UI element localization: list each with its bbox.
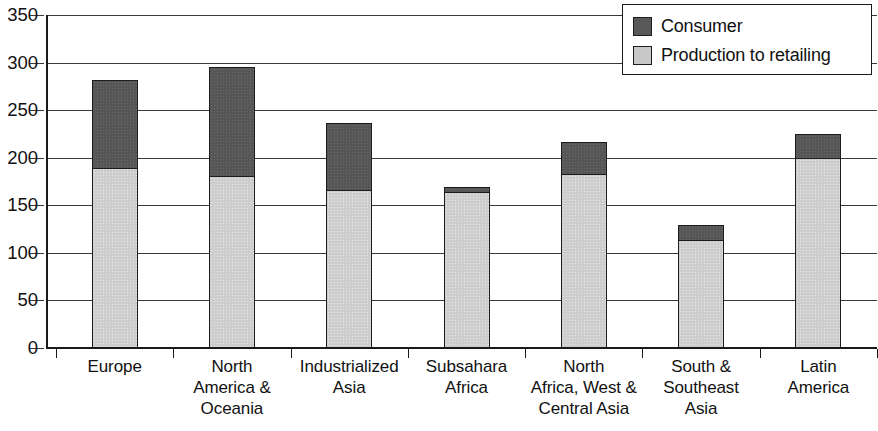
x-axis-label-line: Africa, West & bbox=[524, 377, 644, 398]
bar-segment-production-to-retailing bbox=[92, 167, 138, 348]
x-axis-label-line: Industrialized bbox=[289, 356, 409, 377]
y-tick-label: 200 bbox=[0, 149, 38, 167]
bar-group bbox=[561, 142, 607, 348]
x-axis-label-line: America & bbox=[172, 377, 292, 398]
bar-segment-production-to-retailing bbox=[326, 190, 372, 348]
y-tick-label: 150 bbox=[0, 196, 38, 214]
bar-segment-production-to-retailing bbox=[795, 158, 841, 348]
legend-item-production-to-retailing: Production to retailing bbox=[633, 41, 871, 70]
y-tick-label: 50 bbox=[0, 291, 38, 309]
x-axis-label: South &SoutheastAsia bbox=[641, 356, 761, 419]
bar-segment-production-to-retailing bbox=[678, 240, 724, 348]
x-axis-label: NorthAfrica, West &Central Asia bbox=[524, 356, 644, 419]
x-axis-label-line: Africa bbox=[407, 377, 527, 398]
bar-segment-production-to-retailing bbox=[209, 176, 255, 348]
x-axis-label: NorthAmerica &Oceania bbox=[172, 356, 292, 419]
bar-segment-consumer bbox=[326, 123, 372, 192]
x-axis-label: LatinAmerica bbox=[758, 356, 878, 398]
bar-segment-consumer bbox=[561, 142, 607, 176]
legend-item-consumer: Consumer bbox=[633, 12, 871, 41]
bar-segment-production-to-retailing bbox=[561, 174, 607, 348]
y-tick-label: 300 bbox=[0, 54, 38, 72]
bar-group bbox=[326, 123, 372, 348]
y-axis-line bbox=[46, 15, 48, 349]
bar-segment-consumer bbox=[678, 225, 724, 241]
bar-segment-consumer bbox=[92, 80, 138, 169]
bar-group bbox=[795, 134, 841, 348]
bar-group bbox=[444, 187, 490, 348]
x-axis-label-line: Oceania bbox=[172, 398, 292, 419]
chart-legend: Consumer Production to retailing bbox=[622, 4, 872, 75]
bar-group bbox=[209, 67, 255, 348]
x-axis-label-line: Southeast bbox=[641, 377, 761, 398]
x-axis-label-line: North bbox=[524, 356, 644, 377]
y-tick-label: 350 bbox=[0, 6, 38, 24]
legend-swatch-consumer bbox=[633, 17, 652, 36]
bar-group bbox=[678, 225, 724, 348]
x-axis-label: SubsaharaAfrica bbox=[407, 356, 527, 398]
y-tick-label: 100 bbox=[0, 244, 38, 262]
x-axis-label-line: Subsahara bbox=[407, 356, 527, 377]
bar-segment-consumer bbox=[444, 187, 490, 193]
legend-label-production-to-retailing: Production to retailing bbox=[661, 46, 831, 65]
x-axis-label-line: Latin bbox=[758, 356, 878, 377]
x-axis-label-line: Europe bbox=[55, 356, 175, 377]
bar-segment-consumer bbox=[795, 134, 841, 159]
x-axis-label: IndustrializedAsia bbox=[289, 356, 409, 398]
x-axis-label-line: South & bbox=[641, 356, 761, 377]
x-axis-label: Europe bbox=[55, 356, 175, 377]
x-axis-label-line: Asia bbox=[289, 377, 409, 398]
y-tick-label: 0 bbox=[0, 339, 38, 357]
x-axis-label-line: Asia bbox=[641, 398, 761, 419]
x-axis-labels: EuropeNorthAmerica &OceaniaIndustrialize… bbox=[46, 356, 877, 431]
y-tick-label: 250 bbox=[0, 101, 38, 119]
x-axis-label-line: Central Asia bbox=[524, 398, 644, 419]
x-axis-label-line: America bbox=[758, 377, 878, 398]
legend-swatch-production-to-retailing bbox=[633, 46, 652, 65]
bar-segment-consumer bbox=[209, 67, 255, 177]
bar-segment-production-to-retailing bbox=[444, 192, 490, 348]
x-axis-label-line: North bbox=[172, 356, 292, 377]
x-axis-line bbox=[46, 347, 877, 349]
bar-group bbox=[92, 80, 138, 348]
legend-label-consumer: Consumer bbox=[661, 17, 742, 36]
